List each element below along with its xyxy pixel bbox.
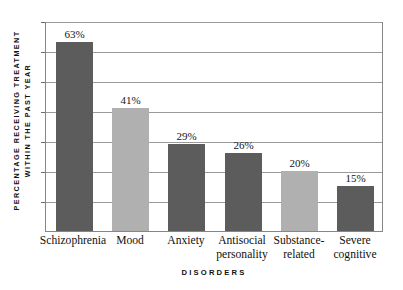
bar-value-label: 29% [176, 130, 196, 142]
bar-antisocial-personality: 26% [225, 153, 262, 231]
bar-anxiety: 29% [168, 144, 205, 231]
y-axis-title-rotated: WITHIN THE PAST YEAR PERCENTAGE RECEIVIN… [12, 30, 33, 210]
chart-screenshot: WITHIN THE PAST YEAR PERCENTAGE RECEIVIN… [0, 0, 403, 290]
bar-schizophrenia: 63% [56, 42, 93, 231]
bar-severe-cognitive: 15% [337, 186, 374, 231]
x-axis-category-labels: SchizophreniaMoodAnxietyAntisocial perso… [45, 234, 383, 270]
plot-area: 63%41%29%26%20%15% [45, 22, 383, 232]
bar-value-label: 20% [289, 157, 309, 169]
bar-value-label: 15% [345, 172, 365, 184]
y-axis-title: WITHIN THE PAST YEAR PERCENTAGE RECEIVIN… [0, 0, 44, 240]
bar-value-label: 41% [120, 94, 140, 106]
x-label-severe-cognitive: Severe cognitive [320, 234, 390, 261]
bar-value-label: 63% [64, 28, 84, 40]
y-axis-title-line-1: PERCENTAGE RECEIVING TREATMENT [12, 30, 22, 210]
bar-mood: 41% [112, 108, 149, 231]
bars-layer: 63%41%29%26%20%15% [46, 23, 382, 231]
bar-substance-related: 20% [281, 171, 318, 231]
x-axis-title: DISORDERS [45, 268, 383, 277]
y-axis-title-line-2: WITHIN THE PAST YEAR [23, 63, 33, 176]
bar-value-label: 26% [233, 139, 253, 151]
